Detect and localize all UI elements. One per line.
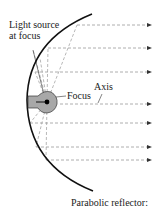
axis-label: Axis xyxy=(94,81,113,92)
light-source-label: Light source at focus xyxy=(9,19,59,41)
light-source-label-line1: Light source xyxy=(9,19,59,30)
light-source-label-line2: at focus xyxy=(9,30,59,41)
focus-leader xyxy=(56,96,66,97)
axis-leader xyxy=(98,94,102,103)
focus-point xyxy=(45,100,50,105)
caption: Parabolic reflector: xyxy=(71,197,148,208)
light-bulb-icon xyxy=(28,92,57,114)
focus-label: Focus xyxy=(67,90,91,101)
arrowhead-icons xyxy=(147,23,152,162)
